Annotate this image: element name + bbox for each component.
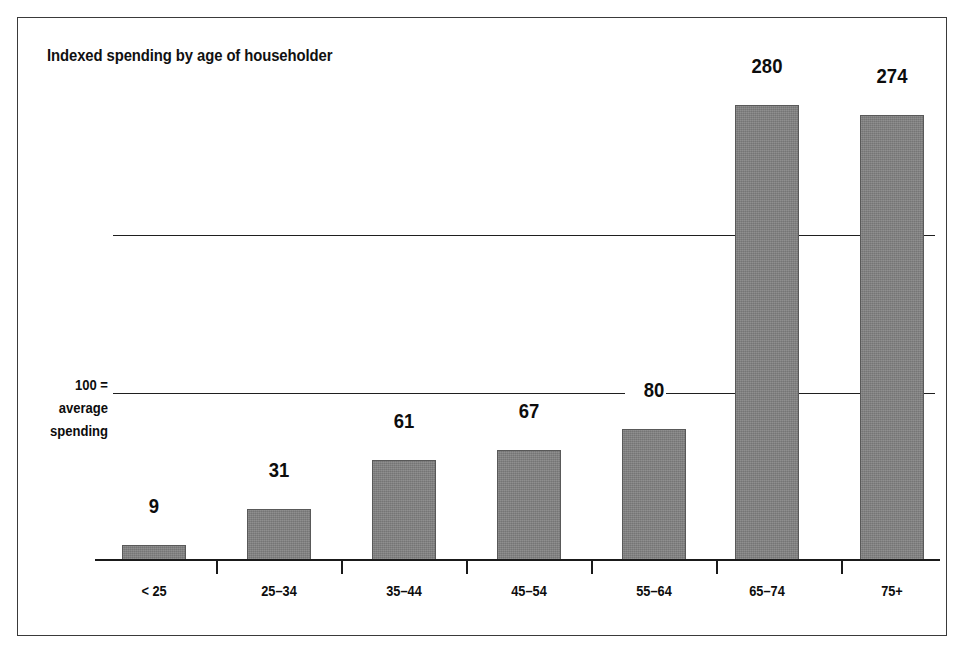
gridline-100-left-segment (113, 393, 625, 394)
x-axis-baseline (95, 559, 940, 561)
bar-value-45-54: 67 (501, 399, 557, 423)
y-axis-note-line-1: 100 = (11, 374, 108, 397)
y-axis-note-line-3: spending (11, 420, 108, 443)
category-label-45-54: 45–54 (494, 583, 564, 599)
gridline-200 (113, 235, 935, 236)
y-axis-index-note: 100 = average spending (0, 374, 108, 443)
bar-value-25-34: 31 (251, 458, 307, 482)
axis-tick-3 (466, 561, 468, 574)
axis-tick-4 (591, 561, 593, 574)
bar-value-35-44: 61 (376, 409, 432, 433)
bar-value-75-plus: 274 (864, 64, 920, 88)
bar-value-lt-25: 9 (126, 494, 182, 518)
bar-45-54 (497, 450, 561, 560)
bar-65-74 (735, 105, 799, 560)
category-label-75-plus: 75+ (857, 583, 927, 599)
bar-55-64 (622, 429, 686, 560)
category-label-55-64: 55–64 (619, 583, 689, 599)
category-label-25-34: 25–34 (244, 583, 314, 599)
axis-tick-2 (341, 561, 343, 574)
bar-lt-25 (122, 545, 186, 560)
bar-75-plus (860, 115, 924, 560)
y-axis-note-line-2: average (11, 397, 108, 420)
bar-35-44 (372, 460, 436, 560)
category-label-lt-25: < 25 (119, 583, 189, 599)
bar-25-34 (247, 509, 311, 560)
axis-tick-1 (216, 561, 218, 574)
category-label-65-74: 65–74 (732, 583, 802, 599)
bar-value-55-64: 80 (626, 378, 682, 402)
axis-tick-5 (716, 561, 718, 574)
chart-figure: Indexed spending by age of householder 9… (0, 0, 967, 665)
plot-area: 9 31 61 67 80 280 274 < 25 25–34 35–44 4… (0, 0, 967, 665)
category-label-35-44: 35–44 (369, 583, 439, 599)
bar-value-65-74: 280 (739, 54, 795, 78)
axis-tick-6 (841, 561, 843, 574)
